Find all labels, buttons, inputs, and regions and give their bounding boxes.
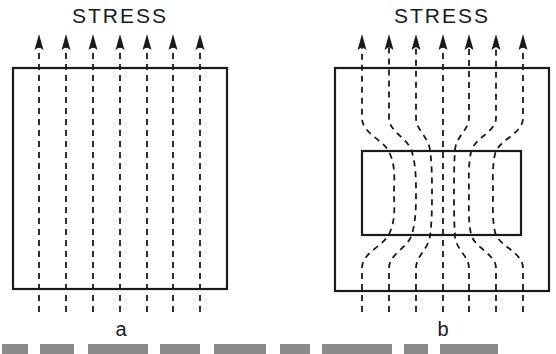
panel-b-inclusion bbox=[362, 151, 521, 235]
stress-figure bbox=[0, 0, 556, 354]
panel-b bbox=[335, 34, 549, 312]
panel-b-block bbox=[335, 68, 549, 291]
figure-caption-cropped bbox=[0, 344, 556, 354]
panel-b-stress-lines bbox=[362, 40, 523, 312]
panel-b-label: b bbox=[428, 318, 458, 341]
panel-a bbox=[13, 34, 227, 312]
panel-a-stress-lines bbox=[39, 40, 200, 312]
stress-diagram: STRESS STRESS bbox=[0, 0, 556, 354]
panel-a-label: a bbox=[106, 318, 136, 341]
